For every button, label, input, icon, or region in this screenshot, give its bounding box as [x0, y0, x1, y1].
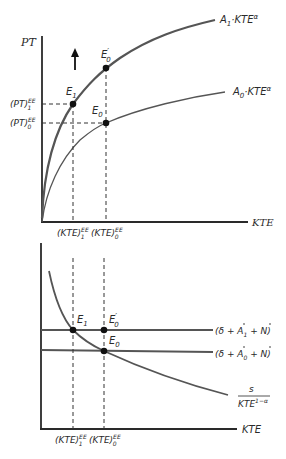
- bottom-label-e1: E1: [77, 314, 88, 328]
- bottom-xtick-kte0: (KTE)EE0: [89, 433, 121, 447]
- savings-curve-label: s KTE1−α: [238, 384, 270, 409]
- bottom-point-e0: [101, 348, 108, 355]
- bottom-point-e1: [70, 327, 77, 334]
- top-xtick-kte1: (KTE)EE1: [57, 226, 89, 240]
- bottom-label-e0: E0: [109, 335, 120, 349]
- line-lower-depreciation: [41, 350, 213, 352]
- top-point-e1: [70, 101, 77, 108]
- savings-denominator: KTE1−α: [238, 397, 268, 409]
- top-ytick-pt0: (PT)EE0: [10, 116, 36, 130]
- top-point-e0: [103, 120, 110, 127]
- top-label-e0: E0: [92, 105, 103, 119]
- top-xtick-kte0: (KTE)EE0: [91, 226, 123, 240]
- bottom-panel: KTE E1 E′0 E0 (δ + A1 + N) (δ + A0 + N): [40, 243, 271, 447]
- diagram: PT KTE A1·KTEα A0·KTEα E1 E: [0, 0, 286, 459]
- top-y-axis-label: PT: [20, 36, 37, 49]
- top-panel: PT KTE A1·KTEα A0·KTEα E1 E: [10, 13, 274, 240]
- curve-savings: [49, 271, 228, 395]
- curve-a1: [42, 20, 215, 218]
- bottom-xtick-kte1: (KTE)EE1: [55, 433, 87, 447]
- line-lower-label: (δ + A0 + N): [215, 349, 271, 361]
- curve-a1-label: A1·KTEα: [219, 13, 258, 28]
- top-ytick-pt1: (PT)EE1: [10, 97, 36, 111]
- bottom-point-e0-prime: [101, 327, 108, 334]
- curve-a0-label: A0·KTEα: [232, 85, 271, 100]
- bottom-x-axis-label: KTE: [242, 424, 262, 435]
- line-upper-label: (δ + A1 + N): [215, 326, 271, 338]
- top-label-e1: E1: [66, 86, 77, 100]
- top-label-e0-prime: E′0: [101, 48, 111, 64]
- top-point-e0-prime: [103, 65, 110, 72]
- savings-numerator: s: [249, 384, 254, 394]
- bottom-label-e0-prime: E′0: [109, 313, 119, 329]
- top-x-axis-label: KTE: [251, 217, 274, 228]
- up-shift-arrow-icon: [71, 48, 79, 70]
